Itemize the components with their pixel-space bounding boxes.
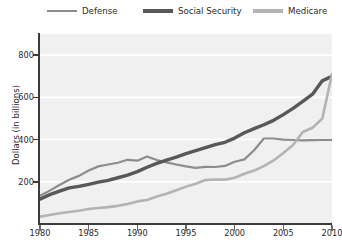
x-tick-mark xyxy=(185,225,186,231)
x-tick-mark xyxy=(234,225,235,231)
x-tick-mark xyxy=(331,225,332,231)
y-tick-mark xyxy=(33,97,38,99)
y-tick-mark xyxy=(33,54,38,56)
x-tick-mark xyxy=(137,225,138,231)
x-tick-mark xyxy=(39,225,40,231)
y-tick-mark xyxy=(33,181,38,183)
y-tick-mark xyxy=(33,139,38,141)
x-tick-mark xyxy=(283,225,284,231)
x-tick-mark xyxy=(88,225,89,231)
